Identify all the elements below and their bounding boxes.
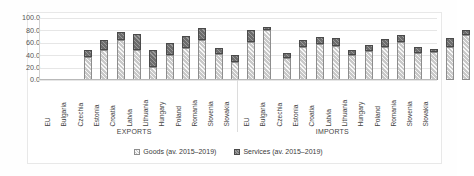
bar-segment-goods[interactable] (446, 47, 454, 80)
bar-segment-services[interactable] (332, 38, 340, 45)
bar-slot[interactable] (178, 18, 194, 80)
bar-slot[interactable] (409, 18, 425, 80)
plot-area (39, 18, 437, 80)
bar-slot[interactable] (377, 18, 393, 80)
bar-segment-goods[interactable] (397, 42, 405, 80)
bar-slot[interactable] (328, 18, 344, 80)
bar-segment-services[interactable] (198, 28, 206, 40)
stacked-bar[interactable] (446, 38, 454, 80)
bar-slot[interactable] (344, 18, 360, 80)
bar-slot[interactable] (145, 18, 161, 80)
bar-slot[interactable] (161, 18, 177, 80)
stacked-bar[interactable] (462, 30, 470, 80)
bar-slot[interactable] (360, 18, 376, 80)
stacked-bar[interactable] (332, 38, 340, 80)
stacked-bar[interactable] (397, 35, 405, 80)
bar-slot[interactable] (259, 18, 275, 80)
bar-segment-services[interactable] (299, 40, 307, 47)
bar-segment-services[interactable] (381, 39, 389, 47)
bar-segment-services[interactable] (397, 35, 405, 42)
bar-segment-goods[interactable] (365, 51, 373, 80)
y-axis-tick-label: 20.0 (26, 64, 40, 71)
bar-segment-goods[interactable] (215, 54, 223, 80)
bar-segment-goods[interactable] (231, 62, 239, 80)
legend-item[interactable]: Goods (av. 2015–2019) (134, 148, 216, 155)
bar-segment-services[interactable] (166, 43, 174, 55)
stacked-bar[interactable] (316, 37, 324, 80)
bar-segment-services[interactable] (117, 32, 125, 40)
stacked-bar[interactable] (215, 48, 223, 80)
bar-segment-goods[interactable] (381, 47, 389, 80)
stacked-bar[interactable] (348, 50, 356, 80)
stacked-bar[interactable] (247, 30, 255, 80)
bar-slot[interactable] (442, 18, 458, 80)
bar-segment-goods[interactable] (430, 52, 438, 80)
bar-segment-services[interactable] (149, 50, 157, 67)
stacked-bar[interactable] (381, 39, 389, 80)
bar-segment-goods[interactable] (198, 40, 206, 80)
bar-segment-goods[interactable] (117, 40, 125, 80)
x-axis-tick-label: Poland (176, 106, 183, 127)
bar-segment-goods[interactable] (414, 53, 422, 80)
bar-segment-goods[interactable] (133, 50, 141, 80)
bar-segment-services[interactable] (231, 55, 239, 62)
bar-segment-goods[interactable] (332, 46, 340, 80)
x-axis-tick-label: Latvia (127, 109, 134, 127)
x-axis-tick-label: Romania (192, 101, 199, 127)
stacked-bar[interactable] (166, 43, 174, 80)
bar-slot[interactable] (96, 18, 112, 80)
stacked-bar[interactable] (430, 49, 438, 80)
bar-segment-services[interactable] (84, 50, 92, 57)
bar-segment-goods[interactable] (182, 48, 190, 80)
bar-segment-services[interactable] (446, 38, 454, 46)
bar-segment-services[interactable] (365, 45, 373, 52)
bar-slot[interactable] (393, 18, 409, 80)
bar-segment-goods[interactable] (283, 58, 291, 80)
bar-slot[interactable] (426, 18, 442, 80)
legend-item[interactable]: Services (av. 2015–2019) (234, 148, 322, 155)
bar-segment-goods[interactable] (299, 47, 307, 80)
bar-segment-goods[interactable] (462, 35, 470, 80)
legend-swatch-services-icon (234, 149, 240, 155)
stacked-bar[interactable] (263, 27, 271, 80)
bar-segment-services[interactable] (182, 36, 190, 48)
bar-slot[interactable] (129, 18, 145, 80)
stacked-bar[interactable] (283, 53, 291, 80)
stacked-bar[interactable] (84, 50, 92, 80)
bar-slot[interactable] (194, 18, 210, 80)
x-axis-tick-label: Bulgaria (261, 103, 268, 127)
bar-segment-services[interactable] (100, 40, 108, 49)
legend-label: Services (av. 2015–2019) (243, 148, 322, 155)
bar-segment-goods[interactable] (149, 67, 157, 80)
stacked-bar[interactable] (100, 40, 108, 80)
bar-segment-services[interactable] (133, 34, 141, 50)
bar-segment-goods[interactable] (166, 55, 174, 80)
x-axis-tick-label: Slovakia (225, 102, 232, 127)
bar-segment-goods[interactable] (247, 42, 255, 80)
bar-slot[interactable] (243, 18, 259, 80)
bar-segment-goods[interactable] (348, 55, 356, 80)
stacked-bar[interactable] (299, 40, 307, 80)
bar-segment-goods[interactable] (100, 50, 108, 80)
bar-slot[interactable] (295, 18, 311, 80)
stacked-bar[interactable] (198, 28, 206, 80)
stacked-bar[interactable] (117, 32, 125, 80)
bar-slot[interactable] (210, 18, 226, 80)
bar-segment-goods[interactable] (316, 44, 324, 80)
bar-segment-services[interactable] (316, 37, 324, 44)
bar-segment-goods[interactable] (84, 57, 92, 80)
bar-slot[interactable] (113, 18, 129, 80)
bar-slot[interactable] (279, 18, 295, 80)
bar-slot[interactable] (312, 18, 328, 80)
bar-slot[interactable] (80, 18, 96, 80)
bar-slot[interactable] (227, 18, 243, 80)
bar-segment-goods[interactable] (263, 30, 271, 80)
stacked-bar[interactable] (414, 47, 422, 80)
bar-slot[interactable] (458, 18, 474, 80)
bar-segment-services[interactable] (247, 30, 255, 41)
stacked-bar[interactable] (365, 45, 373, 80)
stacked-bar[interactable] (133, 34, 141, 80)
stacked-bar[interactable] (231, 55, 239, 80)
stacked-bar[interactable] (149, 50, 157, 80)
stacked-bar[interactable] (182, 36, 190, 80)
